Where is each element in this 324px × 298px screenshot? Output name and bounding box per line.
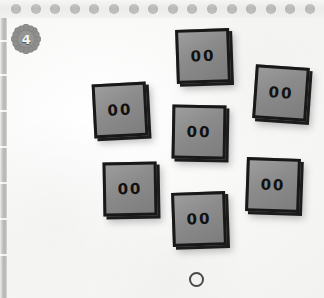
band-dot bbox=[70, 4, 80, 14]
dotted-band bbox=[0, 0, 324, 18]
ruler-tick bbox=[0, 146, 7, 148]
ruler-tick bbox=[0, 218, 7, 220]
tile[interactable]: 00 bbox=[172, 105, 227, 160]
tile[interactable]: 00 bbox=[175, 28, 231, 84]
band-dot bbox=[31, 4, 41, 14]
tile-label: 00 bbox=[268, 85, 294, 102]
band-dot bbox=[266, 4, 276, 14]
tile[interactable]: 00 bbox=[245, 157, 301, 213]
band-dot bbox=[89, 4, 99, 14]
ruler-tick bbox=[0, 182, 7, 184]
tile[interactable]: 00 bbox=[92, 82, 149, 139]
game-board: 4 00 00 00 00 00 00 00 bbox=[0, 0, 324, 298]
band-dot bbox=[187, 4, 197, 14]
band-dot bbox=[246, 4, 256, 14]
tile-label: 00 bbox=[117, 181, 142, 196]
circle-marker[interactable] bbox=[189, 272, 204, 287]
band-dot bbox=[109, 4, 119, 14]
tile-label: 00 bbox=[186, 124, 211, 139]
tile-label: 00 bbox=[186, 211, 211, 227]
band-dot bbox=[148, 4, 158, 14]
tile-face: 00 bbox=[172, 105, 227, 160]
tile-label: 00 bbox=[107, 102, 133, 118]
ruler-strip bbox=[0, 18, 7, 298]
band-dot bbox=[50, 4, 60, 14]
tile-face: 00 bbox=[252, 64, 310, 122]
tile-face: 00 bbox=[92, 82, 149, 139]
ruler-tick bbox=[0, 254, 7, 256]
tile-face: 00 bbox=[245, 157, 301, 213]
ruler-tick bbox=[0, 74, 7, 76]
band-dot bbox=[305, 4, 315, 14]
tile[interactable]: 00 bbox=[252, 64, 310, 122]
paper-grain bbox=[0, 0, 324, 298]
band-dot bbox=[11, 4, 21, 14]
tile-face: 00 bbox=[103, 162, 158, 217]
band-dot bbox=[227, 4, 237, 14]
tile-face: 00 bbox=[175, 28, 231, 84]
ruler-tick bbox=[0, 40, 7, 42]
band-dot bbox=[285, 4, 295, 14]
band-dot bbox=[168, 4, 178, 14]
gear-badge-value: 4 bbox=[11, 24, 41, 54]
tile[interactable]: 00 bbox=[103, 162, 158, 217]
tile-face: 00 bbox=[171, 191, 227, 247]
gear-badge[interactable]: 4 bbox=[11, 24, 41, 54]
tile-label: 00 bbox=[190, 48, 215, 64]
tile[interactable]: 00 bbox=[171, 191, 227, 247]
tile-label: 00 bbox=[260, 177, 285, 193]
band-dot bbox=[207, 4, 217, 14]
band-dot bbox=[129, 4, 139, 14]
ruler-tick bbox=[0, 110, 7, 112]
dot-row bbox=[0, 0, 324, 18]
